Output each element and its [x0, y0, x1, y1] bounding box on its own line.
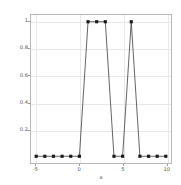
y-tick-mark [28, 103, 30, 104]
data-point-marker [86, 20, 89, 23]
series-line [36, 22, 166, 157]
data-point-marker [164, 155, 167, 158]
x-tick-mark [123, 164, 124, 166]
x-tick-mark [167, 164, 168, 166]
data-point-marker [121, 155, 124, 158]
data-point-marker [130, 20, 133, 23]
y-tick-label: 0.4 [20, 100, 28, 105]
y-tick-mark [28, 48, 30, 49]
x-tick-label: 5 [121, 167, 124, 172]
x-tick-label: 0 [77, 167, 80, 172]
data-point-marker [147, 155, 150, 158]
y-tick-mark [28, 75, 30, 76]
y-tick-mark [28, 130, 30, 131]
y-tick-label: 0.8 [20, 45, 28, 50]
data-point-marker [156, 155, 159, 158]
x-tick-label: 10 [163, 167, 170, 172]
data-point-marker [95, 20, 98, 23]
data-point-marker [104, 20, 107, 23]
x-axis-label: x [30, 175, 172, 180]
data-point-marker [35, 155, 38, 158]
y-tick-label: 0.2 [20, 127, 28, 132]
chart-figure: 0.20.40.60.81 -50510 x [0, 0, 181, 185]
data-point-marker [61, 155, 64, 158]
data-series-line [31, 15, 171, 163]
data-point-marker [43, 155, 46, 158]
y-axis-tick-labels: 0.20.40.60.81 [0, 14, 28, 164]
y-tick-label: 0.6 [20, 73, 28, 78]
data-point-marker [78, 155, 81, 158]
x-tick-mark [79, 164, 80, 166]
x-tick-mark [35, 164, 36, 166]
data-point-marker [52, 155, 55, 158]
y-tick-mark [28, 21, 30, 22]
data-point-marker [138, 155, 141, 158]
plot-area [30, 14, 172, 164]
data-point-marker [69, 155, 72, 158]
data-point-marker [112, 155, 115, 158]
x-tick-label: -5 [33, 167, 38, 172]
